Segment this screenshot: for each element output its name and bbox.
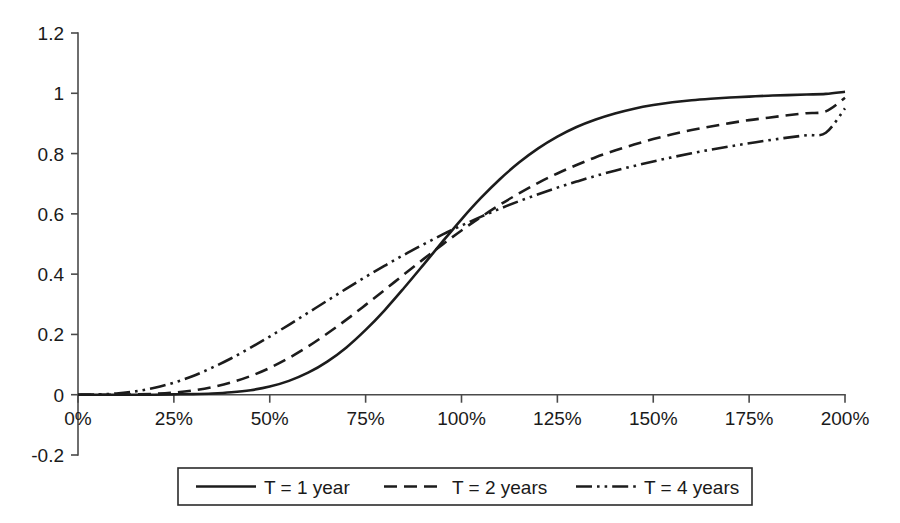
y-tick-label: 0.4 [38,264,65,285]
x-axis-tick-labels: 0%25%50%75%100%125%150%175%200% [64,408,869,429]
y-tick-label: 1.2 [38,23,64,44]
chart-legend: T = 1 yearT = 2 yearsT = 4 years [178,468,752,505]
x-tick-label: 100% [437,408,486,429]
y-tick-label: 0 [53,385,64,406]
line-chart: 1.210.80.60.40.20-0.2 0%25%50%75%100%125… [0,0,900,523]
x-tick-label: 50% [251,408,289,429]
y-tick-label: -0.2 [31,445,64,466]
y-tick-label: 0.8 [38,144,64,165]
chart-figure: 1.210.80.60.40.20-0.2 0%25%50%75%100%125… [0,0,900,523]
x-tick-label: 0% [64,408,92,429]
x-tick-label: 125% [533,408,582,429]
legend-items: T = 1 yearT = 2 yearsT = 4 years [196,477,739,498]
x-tick-label: 25% [155,408,193,429]
legend-label: T = 2 years [452,477,547,498]
x-tick-label: 200% [821,408,870,429]
y-tick-label: 0.6 [38,204,64,225]
legend-label: T = 4 years [644,477,739,498]
chart-background [0,0,900,523]
y-tick-label: 1 [53,83,64,104]
x-tick-label: 75% [347,408,385,429]
x-tick-label: 175% [725,408,774,429]
legend-label: T = 1 year [264,477,350,498]
x-tick-label: 150% [629,408,678,429]
y-tick-label: 0.2 [38,324,64,345]
